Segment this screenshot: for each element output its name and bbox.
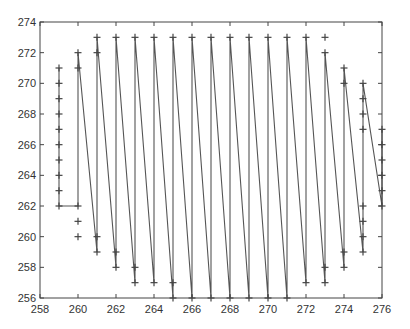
x-tick-label: 270 — [259, 303, 277, 315]
x-tick-label: 276 — [373, 303, 391, 315]
y-tick-label: 272 — [18, 47, 36, 59]
x-tick-label: 260 — [69, 303, 87, 315]
chart: 258260262264266268270272274276 256258260… — [0, 0, 410, 329]
x-tick-label: 272 — [297, 303, 315, 315]
x-tick-label: 258 — [31, 303, 49, 315]
x-tick-label: 266 — [183, 303, 201, 315]
y-tick-label: 264 — [18, 169, 36, 181]
x-tick-label: 264 — [145, 303, 163, 315]
y-tick-label: 266 — [18, 139, 36, 151]
y-tick-label: 258 — [18, 261, 36, 273]
y-tick-label: 262 — [18, 200, 36, 212]
x-tick-label: 268 — [221, 303, 239, 315]
y-tick-label: 270 — [18, 77, 36, 89]
y-tick-label: 256 — [18, 292, 36, 304]
x-tick-label: 274 — [335, 303, 353, 315]
x-tick-label: 262 — [107, 303, 125, 315]
y-tick-label: 274 — [18, 16, 36, 28]
y-tick-label: 260 — [18, 231, 36, 243]
y-tick-label: 268 — [18, 108, 36, 120]
